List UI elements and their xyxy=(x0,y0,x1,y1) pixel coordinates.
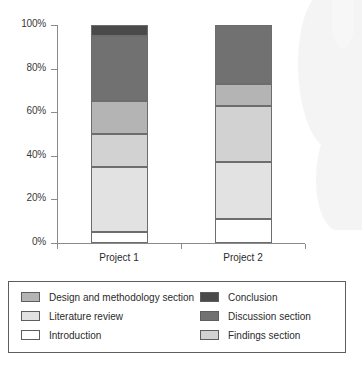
stacked-bar-chart: 0%20%40%60%80%100% Project 1Project 2 xyxy=(0,0,362,272)
legend-column-right: ConclusionDiscussion sectionFindings sec… xyxy=(200,288,311,345)
legend-swatch-icon xyxy=(200,330,219,340)
bar-project-2[interactable] xyxy=(215,25,272,243)
y-axis-tick-label: 80% xyxy=(27,62,46,73)
bar-segment[interactable] xyxy=(91,36,148,101)
legend-label: Literature review xyxy=(49,311,123,322)
chart-page: 0%20%40%60%80%100% Project 1Project 2 De… xyxy=(0,0,362,369)
bar-segment[interactable] xyxy=(91,232,148,243)
bar-segment[interactable] xyxy=(91,101,148,134)
legend-swatch-icon xyxy=(21,330,40,340)
y-axis-tick: 80% xyxy=(51,69,57,70)
y-axis-tick: 20% xyxy=(51,199,57,200)
bar-segment[interactable] xyxy=(91,25,148,36)
bar-segment[interactable] xyxy=(215,84,272,106)
y-axis-tick-label: 40% xyxy=(27,149,46,160)
legend-label: Conclusion xyxy=(228,292,277,303)
bar-segment[interactable] xyxy=(91,167,148,232)
bar-segment[interactable] xyxy=(215,162,272,219)
bar-segment[interactable] xyxy=(215,219,272,243)
legend-item[interactable]: Introduction xyxy=(21,326,194,344)
y-axis-tick: 100% xyxy=(51,25,57,26)
bar-segment[interactable] xyxy=(91,134,148,167)
legend-item[interactable]: Literature review xyxy=(21,307,194,325)
legend-item[interactable]: Findings section xyxy=(200,326,311,344)
bar-project-1[interactable] xyxy=(91,25,148,243)
y-axis-tick-label: 20% xyxy=(27,192,46,203)
x-axis-tick xyxy=(305,244,306,249)
x-axis-tick xyxy=(181,244,182,249)
y-axis-tick: 60% xyxy=(51,112,57,113)
y-axis-tick: 40% xyxy=(51,156,57,157)
legend-item[interactable]: Discussion section xyxy=(200,307,311,325)
legend-label: Design and methodology section xyxy=(49,292,194,303)
legend-swatch-icon xyxy=(21,292,40,302)
y-axis-tick-label: 60% xyxy=(27,105,46,116)
legend-item[interactable]: Conclusion xyxy=(200,288,311,306)
bar-segment[interactable] xyxy=(215,25,272,84)
legend-swatch-icon xyxy=(200,292,219,302)
legend-label: Findings section xyxy=(228,330,300,341)
legend-swatch-icon xyxy=(200,311,219,321)
bar-segment[interactable] xyxy=(215,106,272,163)
legend-label: Discussion section xyxy=(228,311,311,322)
chart-legend: Design and methodology sectionLiterature… xyxy=(8,281,346,353)
legend-item[interactable]: Design and methodology section xyxy=(21,288,194,306)
y-axis-line xyxy=(57,25,58,243)
x-axis-category-label: Project 1 xyxy=(57,252,181,263)
x-axis-tick xyxy=(57,244,58,249)
legend-label: Introduction xyxy=(49,330,101,341)
legend-swatch-icon xyxy=(21,311,40,321)
y-axis-tick-label: 0% xyxy=(32,236,46,247)
y-axis-tick-label: 100% xyxy=(21,18,46,29)
x-axis-category-label: Project 2 xyxy=(181,252,305,263)
legend-column-left: Design and methodology sectionLiterature… xyxy=(21,288,194,345)
